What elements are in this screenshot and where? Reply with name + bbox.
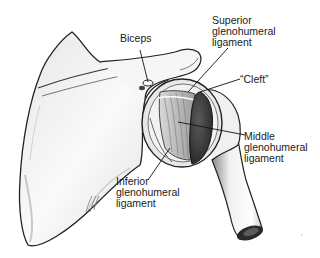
label-superior-glenohumeral-ligament: Superior glenohumeral ligament — [212, 15, 276, 48]
leader-cleft — [200, 79, 240, 92]
label-inferior-glenohumeral-ligament: Inferior glenohumeral ligament — [116, 176, 180, 209]
speck-mark — [301, 234, 303, 236]
label-middle-glenohumeral-ligament: Middle glenohumeral ligament — [244, 131, 308, 164]
label-cleft: “Cleft” — [240, 74, 269, 85]
label-biceps: Biceps — [120, 33, 152, 44]
